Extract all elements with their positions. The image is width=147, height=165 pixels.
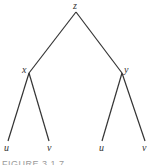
edge-z-y — [76, 12, 122, 73]
edge-y-u — [102, 73, 122, 141]
node-label-u-right: u — [99, 143, 104, 153]
node-label-z: z — [73, 1, 77, 11]
edge-y-v — [122, 73, 145, 141]
node-label-x: x — [22, 65, 26, 75]
edge-x-u — [8, 73, 29, 141]
node-label-v-left: v — [47, 143, 51, 153]
tree-diagram — [0, 0, 147, 165]
node-label-u-left: u — [4, 143, 9, 153]
edge-x-v — [29, 73, 49, 141]
edge-z-x — [29, 12, 76, 73]
figure-caption: FIGURE 3.1.7 — [2, 159, 65, 165]
node-label-y: y — [124, 65, 128, 75]
node-label-v-right: v — [142, 143, 146, 153]
